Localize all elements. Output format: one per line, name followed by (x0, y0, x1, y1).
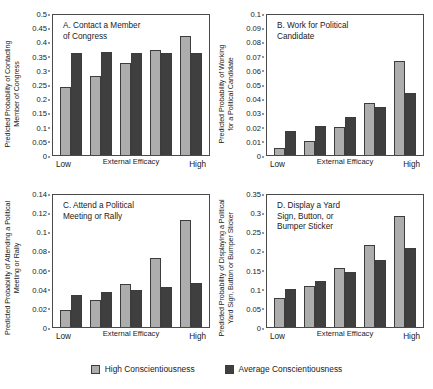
bar (364, 245, 375, 327)
panel-b-ytick: 0.02 (246, 123, 261, 132)
legend-label-high-conscientiousness: High Conscientiousness (105, 364, 195, 374)
panel-a-ytick: 0.15 (32, 109, 47, 118)
panel-c-ytick: 0.1 (36, 228, 47, 237)
bar-group (90, 15, 112, 155)
legend-item-high-conscientiousness: High Conscientiousness (91, 364, 195, 374)
panel-d-ytick: 0.25 (246, 228, 261, 237)
bar (150, 50, 161, 155)
panel-d-ytick: 0.3 (250, 209, 261, 218)
bar-group (304, 195, 326, 327)
bar (345, 117, 356, 155)
panel-c-y-ticks: 0.140.120.10.080.060.040.020 (20, 194, 50, 328)
bar-group (364, 195, 386, 327)
bar-group (274, 195, 296, 327)
legend-swatch-high-conscientiousness (91, 365, 100, 374)
bar (191, 283, 202, 327)
panel-b-ytick: 0.05 (246, 81, 261, 90)
bar (394, 61, 405, 155)
panel-c-ytick: 0.02 (32, 304, 47, 313)
bar (315, 281, 326, 327)
legend-swatch-average-conscientiousness (225, 365, 234, 374)
bar (334, 127, 345, 155)
panel-b-x-axis-title: External Efficacy (266, 157, 424, 166)
panel-b-bars (267, 15, 423, 155)
panel-b-ytick: 0 (257, 152, 261, 161)
panel-a-ytick: 0.05 (32, 137, 47, 146)
panel-b-ytick: 0.09 (246, 24, 261, 33)
bar (161, 53, 172, 155)
bar (60, 87, 71, 155)
panel-c-y-axis-label: Predicted Probability of Attending a Pol… (4, 188, 21, 348)
panel-b-ytick: 0.1 (250, 10, 261, 19)
panel-a-contact-member-of-congress: Predicted Probability of Contacting Memb… (2, 6, 216, 188)
panel-c-attend-political-meeting-or-rally: Predicted Probability of Attending a Pol… (2, 188, 216, 360)
panel-a-ytick: 0.25 (32, 81, 47, 90)
legend-item-average-conscientiousness: Average Conscientiousness (225, 364, 343, 374)
bar (364, 103, 375, 155)
bar-group (120, 15, 142, 155)
bar (90, 300, 101, 327)
bar (285, 131, 296, 155)
panel-a-ytick: 0 (43, 152, 47, 161)
bar (285, 289, 296, 327)
panel-d-ytick: 0.2 (250, 247, 261, 256)
bar-group (150, 195, 172, 327)
panel-b-ytick: 0.04 (246, 95, 261, 104)
panel-c-ytick: 0.12 (32, 209, 47, 218)
bar (120, 284, 131, 327)
legend-label-average-conscientiousness: Average Conscientiousness (239, 364, 343, 374)
panel-a-ytick: 0.35 (32, 52, 47, 61)
panel-c-ytick: 0.06 (32, 266, 47, 275)
panel-d-y-ticks: 0.350.30.250.20.150.10.050 (234, 194, 264, 328)
bar (180, 220, 191, 327)
panel-d-ytick: 0.1 (250, 285, 261, 294)
bar (394, 216, 405, 327)
bar (304, 141, 315, 155)
panel-b-ytick: 0.07 (246, 52, 261, 61)
panel-c-x-axis-title: External Efficacy (52, 329, 210, 338)
bar (274, 148, 285, 155)
panel-a-xtick-high: High (189, 160, 206, 169)
panel-b-plot-area: B. Work for Political Candidate (266, 14, 424, 156)
panel-a-bars (53, 15, 209, 155)
bar-group (394, 195, 416, 327)
panel-a-ytick: 0.4 (36, 38, 47, 47)
panel-d-bars (267, 195, 423, 327)
panel-b-ytick: 0.03 (246, 109, 261, 118)
panel-b-xtick-high: High (403, 160, 420, 169)
bar (150, 258, 161, 327)
bar-group (274, 15, 296, 155)
bar (101, 52, 112, 155)
bar (71, 53, 82, 155)
panel-d-xtick-high: High (403, 332, 420, 341)
panel-c-ytick: 0.08 (32, 247, 47, 256)
bar (131, 290, 142, 327)
bar (120, 63, 131, 155)
panel-b-ytick: 0.08 (246, 38, 261, 47)
panel-a-ytick: 0.5 (36, 10, 47, 19)
panel-d-ytick: 0.35 (246, 190, 261, 199)
bar-group (394, 15, 416, 155)
bar (345, 272, 356, 327)
panel-b-y-axis-label: Predicted Probability of Working for a P… (218, 14, 235, 174)
bar (334, 268, 345, 327)
bar-group (60, 15, 82, 155)
panel-d-ytick: 0 (257, 324, 261, 333)
panel-b-work-for-political-candidate: Predicted Probability of Working for a P… (216, 6, 431, 188)
panel-d-plot-area: D. Display a Yard Sign, Button, or Bumpe… (266, 194, 424, 328)
bar (180, 36, 191, 155)
panel-a-ytick: 0.2 (36, 95, 47, 104)
bar-group (304, 15, 326, 155)
chart-legend: High Conscientiousness Average Conscient… (0, 364, 433, 374)
panel-c-xtick-high: High (189, 332, 206, 341)
bar (60, 310, 71, 327)
panel-d-ytick: 0.15 (246, 266, 261, 275)
bar-group (364, 15, 386, 155)
panel-a-y-axis-label: Predicted Probability of Contacting Memb… (4, 14, 21, 174)
figure-four-panel-bar-charts: Predicted Probability of Contacting Memb… (0, 0, 433, 389)
bar-group (180, 15, 202, 155)
bar (274, 298, 285, 327)
panel-a-ytick: 0.3 (36, 66, 47, 75)
panel-c-bars (53, 195, 209, 327)
panel-a-ytick: 0.1 (36, 123, 47, 132)
